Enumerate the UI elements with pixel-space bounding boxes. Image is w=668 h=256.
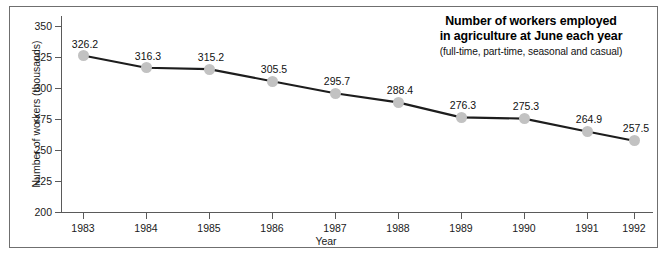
x-tick-label-1989: 1989 — [431, 222, 491, 234]
x-tick-label-1992: 1992 — [604, 222, 664, 234]
y-tick-325 — [55, 57, 61, 58]
x-tick-label-1988: 1988 — [368, 222, 428, 234]
x-tick-label-1983: 1983 — [53, 222, 113, 234]
data-label-1987: 295.7 — [307, 75, 367, 87]
x-tick-1987 — [335, 213, 336, 219]
x-tick-1984 — [146, 213, 147, 219]
y-tick-275 — [55, 119, 61, 120]
data-point-1988[interactable] — [393, 97, 404, 108]
data-point-1985[interactable] — [204, 64, 215, 75]
x-tick-1992 — [634, 213, 635, 219]
chart-subtitle: (full-time, part-time, seasonal and casu… — [408, 46, 654, 57]
data-point-1986[interactable] — [267, 76, 278, 87]
title-block: Number of workers employed in agricultur… — [408, 14, 654, 57]
data-label-1986: 305.5 — [244, 63, 304, 75]
x-tick-1988 — [398, 213, 399, 219]
x-tick-1985 — [209, 213, 210, 219]
y-tick-200 — [55, 212, 61, 213]
data-point-1992[interactable] — [629, 135, 640, 146]
chart-title-line-2: in agriculture at June each year — [408, 29, 654, 44]
data-point-1983[interactable] — [78, 50, 89, 61]
y-tick-225 — [55, 181, 61, 182]
chart-title-line-1: Number of workers employed — [408, 14, 654, 29]
data-label-1983: 326.2 — [55, 38, 115, 50]
x-axis-line — [61, 212, 653, 213]
data-point-1990[interactable] — [519, 113, 530, 124]
x-tick-1991 — [587, 213, 588, 219]
x-tick-label-1985: 1985 — [179, 222, 239, 234]
x-tick-1990 — [524, 213, 525, 219]
data-label-1985: 315.2 — [181, 51, 241, 63]
data-label-1990: 275.3 — [496, 100, 556, 112]
data-point-1987[interactable] — [330, 88, 341, 99]
data-point-1984[interactable] — [141, 62, 152, 73]
data-label-1992: 257.5 — [606, 122, 666, 134]
chart-title: Number of workers employed in agricultur… — [408, 14, 654, 44]
data-point-1991[interactable] — [582, 126, 593, 137]
y-axis-title: Number of workers (thousands) — [30, 14, 42, 214]
x-tick-1989 — [461, 213, 462, 219]
x-tick-1986 — [272, 213, 273, 219]
y-tick-250 — [55, 150, 61, 151]
x-axis-title: Year — [286, 235, 366, 247]
x-tick-label-1986: 1986 — [242, 222, 302, 234]
data-label-1989: 276.3 — [433, 99, 493, 111]
data-label-1984: 316.3 — [118, 50, 178, 62]
x-tick-1983 — [83, 213, 84, 219]
x-tick-label-1990: 1990 — [494, 222, 554, 234]
y-tick-350 — [55, 26, 61, 27]
figure: 350 325 300 275 250 225 200 Number of wo… — [0, 0, 668, 256]
data-label-1988: 288.4 — [370, 84, 430, 96]
x-tick-label-1987: 1987 — [305, 222, 365, 234]
data-point-1989[interactable] — [456, 112, 467, 123]
x-tick-label-1984: 1984 — [116, 222, 176, 234]
y-tick-300 — [55, 88, 61, 89]
